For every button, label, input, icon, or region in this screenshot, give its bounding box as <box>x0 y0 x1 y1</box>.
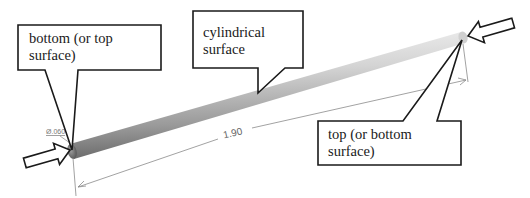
callout-right-line1: top (or bottom <box>328 126 412 143</box>
callout-left-text: bottom (or top surface) <box>29 30 113 64</box>
arrow-right-end-icon <box>465 12 516 46</box>
arrow-left-end-icon <box>22 139 73 173</box>
callout-left-line1: bottom (or top <box>29 30 113 47</box>
callout-middle-text: cylindrical surface <box>203 24 265 58</box>
callout-left-line2: surface) <box>29 47 113 64</box>
length-dimension-label: 1.90 <box>222 125 244 140</box>
callout-middle-line1: cylindrical <box>203 24 265 41</box>
diameter-label: Ø.060 <box>46 128 65 135</box>
callout-right-text: top (or bottom surface) <box>328 126 412 160</box>
callout-right-line2: surface) <box>328 143 412 160</box>
callout-middle-line2: surface <box>203 41 265 58</box>
